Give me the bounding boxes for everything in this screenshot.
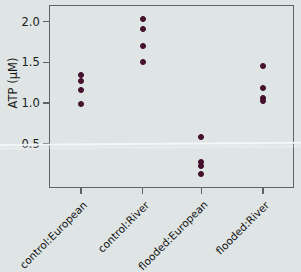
y-tick-label: 1.0 [0, 96, 40, 110]
data-point [198, 171, 204, 177]
x-tick-label: flooded:River [198, 199, 272, 272]
data-point [260, 63, 266, 69]
x-tick-mark [80, 188, 81, 194]
x-tick-mark [262, 188, 263, 194]
data-point [140, 59, 146, 65]
data-point [260, 98, 266, 104]
data-point [78, 72, 84, 78]
data-point [198, 163, 204, 169]
data-point [140, 16, 146, 22]
x-tick-mark [142, 188, 143, 194]
data-point [198, 134, 204, 140]
data-point [140, 43, 146, 49]
data-point [78, 78, 84, 84]
data-point [78, 87, 84, 93]
data-point [78, 101, 84, 107]
plot-data-area [49, 5, 294, 188]
x-tick-label: control:European [16, 199, 90, 272]
x-tick-mark [201, 188, 202, 194]
data-point [260, 85, 266, 91]
y-tick-label: 1.5 [0, 55, 40, 69]
data-point [140, 26, 146, 32]
y-tick-label: 2.0 [0, 15, 40, 29]
